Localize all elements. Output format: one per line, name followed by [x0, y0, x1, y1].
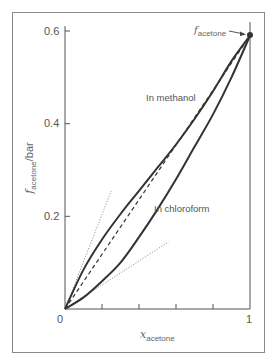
x-axis-title: xacetone [140, 328, 175, 343]
chart: 0.6 0.4 0.2 0 1 facetone/bar xacetone fa… [0, 0, 277, 362]
y-tick-label-0.6: 0.6 [44, 25, 59, 37]
x-tick-label-1: 1 [246, 313, 252, 325]
pure-acetone-point [247, 32, 253, 38]
chloroform-label: In chloroform [154, 203, 210, 214]
pure-acetone-label: facetone [193, 24, 227, 38]
y-ticks [65, 31, 70, 216]
y-axis-title: facetone/bar [23, 142, 38, 195]
y-tick-label-0.4: 0.4 [44, 117, 59, 129]
methanol-label: In methanol [146, 92, 196, 103]
y-tick-label-0.2: 0.2 [44, 210, 59, 222]
x-ticks [102, 304, 213, 309]
annotation-arrowhead [240, 32, 246, 37]
svg-text:facetone/bar: facetone/bar [23, 142, 38, 195]
x-tick-label-0: 0 [57, 313, 63, 325]
